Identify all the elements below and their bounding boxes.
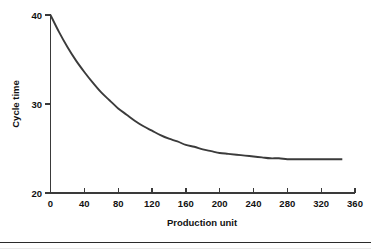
y-tick-label-40: 40 <box>31 10 42 21</box>
x-tick-label-40: 40 <box>79 198 90 209</box>
x-tick-label-160: 160 <box>178 198 194 209</box>
cycle-time-chart-figure: 20 30 40 0 40 80 120 160 200 240 280 320… <box>0 0 371 251</box>
y-tick-label-20: 20 <box>31 188 42 199</box>
x-axis-ticks <box>51 188 356 194</box>
x-tick-label-240: 240 <box>246 198 262 209</box>
y-axis-ticks <box>45 15 51 193</box>
chart-plot-area: 20 30 40 0 40 80 120 160 200 240 280 320… <box>0 0 371 251</box>
footer-divider <box>0 242 371 243</box>
x-tick-label-120: 120 <box>144 198 160 209</box>
y-tick-label-30: 30 <box>31 99 42 110</box>
footer-divider-faint <box>0 248 371 249</box>
x-axis-title: Production unit <box>167 217 238 228</box>
x-tick-label-80: 80 <box>113 198 124 209</box>
y-axis-title: Cycle time <box>10 80 21 128</box>
x-tick-label-360: 360 <box>347 198 363 209</box>
cycle-time-curve <box>51 15 343 159</box>
x-tick-label-200: 200 <box>212 198 228 209</box>
x-tick-label-0: 0 <box>48 198 53 209</box>
x-tick-label-320: 320 <box>313 198 329 209</box>
x-tick-label-280: 280 <box>279 198 295 209</box>
